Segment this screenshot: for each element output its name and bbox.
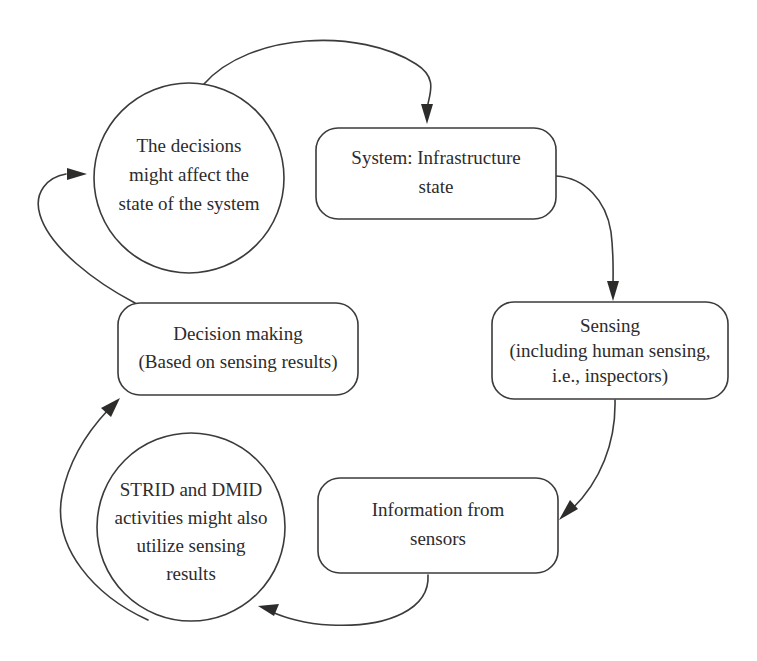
node-strid-dmid-activities-line-2: activities might also	[114, 507, 267, 528]
node-decisions-affect-state-line-1: The decisions	[136, 135, 241, 156]
edge-decisions-to-system-arrowhead	[421, 104, 433, 124]
diagram-svg: The decisions might affect the state of …	[0, 0, 757, 661]
node-information-from-sensors-line-1: Information from	[372, 499, 505, 520]
edge-decision-making-to-decisions-arrowhead	[67, 168, 87, 180]
node-information-from-sensors-line-2: sensors	[410, 528, 466, 549]
edge-system-to-sensing-path	[556, 176, 613, 288]
node-strid-dmid-activities[interactable]: STRID and DMID activities might also uti…	[97, 433, 285, 621]
node-information-from-sensors[interactable]: Information from sensors	[318, 478, 558, 573]
node-decisions-affect-state-line-3: state of the system	[119, 193, 260, 214]
node-system-infrastructure-state-line-2: state	[419, 176, 454, 197]
node-sensing[interactable]: Sensing (including human sensing, i.e., …	[492, 302, 728, 399]
edge-information-to-strid	[258, 575, 428, 625]
diagram-canvas: The decisions might affect the state of …	[0, 0, 757, 661]
node-sensing-line-3: i.e., inspectors)	[552, 365, 668, 387]
node-system-infrastructure-state[interactable]: System: Infrastructure state	[316, 128, 556, 219]
edge-sensing-to-information	[559, 400, 615, 520]
edge-system-to-sensing-arrowhead	[607, 281, 619, 301]
edge-system-to-sensing	[556, 176, 619, 301]
edge-information-to-strid-path	[272, 575, 428, 625]
node-system-infrastructure-state-shape[interactable]	[316, 128, 556, 219]
node-decision-making-shape[interactable]	[118, 303, 358, 395]
node-decision-making[interactable]: Decision making (Based on sensing result…	[118, 303, 358, 395]
node-system-infrastructure-state-line-1: System: Infrastructure	[351, 147, 520, 168]
edge-sensing-to-information-arrowhead	[559, 500, 578, 520]
edge-sensing-to-information-path	[572, 400, 615, 509]
node-decision-making-line-2: (Based on sensing results)	[139, 351, 338, 373]
node-sensing-line-2: (including human sensing,	[509, 340, 710, 362]
node-information-from-sensors-shape[interactable]	[318, 478, 558, 573]
node-decisions-affect-state-line-2: might affect the	[129, 164, 249, 185]
node-strid-dmid-activities-line-4: results	[166, 563, 216, 584]
node-strid-dmid-activities-line-3: utilize sensing	[136, 535, 246, 556]
node-decision-making-line-1: Decision making	[173, 323, 303, 344]
node-sensing-line-1: Sensing	[580, 315, 641, 336]
node-strid-dmid-activities-line-1: STRID and DMID	[120, 479, 263, 500]
node-decisions-affect-state[interactable]: The decisions might affect the state of …	[94, 83, 284, 273]
